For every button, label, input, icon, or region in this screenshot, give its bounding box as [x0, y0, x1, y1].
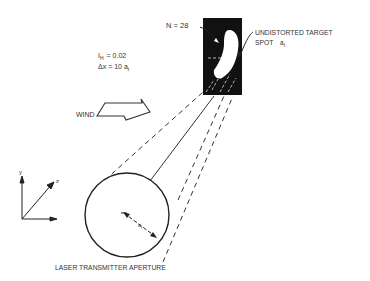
aperture-label: LASER TRANSMITTER APERTURE — [55, 264, 166, 271]
diagram-canvas: N = 28 UNDISTORTED TARGET SPOT at IH= 0.… — [0, 0, 370, 281]
y-axis-label: y — [19, 169, 22, 175]
ih-parameter: IH= 0.02 — [98, 52, 126, 61]
target-symbol: at — [280, 39, 286, 48]
axes-icon — [20, 176, 57, 221]
wind-arrow-icon — [97, 99, 150, 120]
target-label-line1: UNDISTORTED TARGET — [255, 29, 333, 36]
dx-parameter: Δx= 10 at — [98, 63, 130, 72]
radius-label: at — [138, 222, 143, 230]
z-axis-label: z — [56, 178, 59, 184]
target-label-line2: SPOT — [255, 39, 274, 46]
n-label: N = 28 — [166, 21, 188, 30]
wind-label: WIND — [76, 111, 95, 118]
target-plane — [203, 18, 242, 95]
